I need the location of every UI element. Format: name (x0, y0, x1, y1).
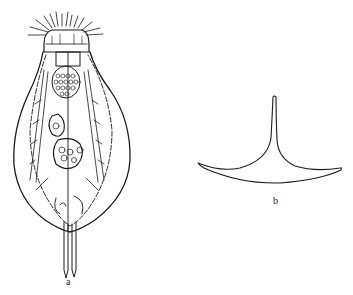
lateral-bands (30, 70, 104, 190)
panel-label-a: a (66, 276, 70, 287)
cilia-corona (28, 12, 103, 35)
lorica-outline (14, 52, 130, 232)
spine-outline (198, 96, 341, 183)
stomach (49, 114, 64, 136)
panel-label-b: b (273, 195, 278, 206)
figure-canvas (0, 0, 353, 295)
mastax (52, 66, 80, 98)
panel-a-rotifer (14, 12, 130, 278)
panel-b-spine (198, 96, 341, 183)
granular-texture (54, 74, 78, 96)
